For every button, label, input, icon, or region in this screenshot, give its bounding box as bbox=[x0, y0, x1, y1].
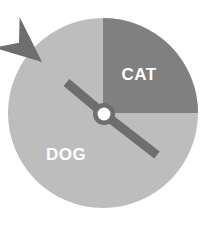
slice-label-cat: CAT bbox=[121, 65, 156, 84]
spinner-wheel-widget[interactable]: CAT DOG bbox=[0, 0, 210, 225]
slice-label-dog: DOG bbox=[46, 145, 86, 164]
pointer-arrow-head bbox=[0, 17, 42, 62]
center-hub-dot[interactable] bbox=[98, 108, 111, 121]
spinner-canvas[interactable]: CAT DOG bbox=[0, 0, 210, 225]
